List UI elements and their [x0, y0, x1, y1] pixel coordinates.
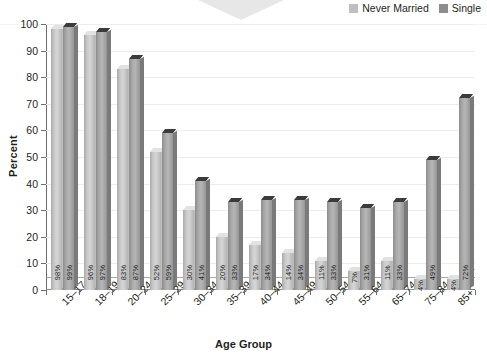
- bar-side-face: [239, 200, 243, 288]
- y-axis-tick-label: 0: [32, 284, 38, 296]
- legend-label-single: Single: [452, 2, 481, 14]
- bar-side-face: [437, 157, 441, 288]
- bar-never-married[interactable]: 7%: [348, 271, 359, 290]
- bar-never-married[interactable]: 11%: [381, 261, 392, 290]
- bar-value-label: 99%: [64, 265, 73, 280]
- gridline: [46, 24, 475, 25]
- y-axis-tick-label: 40: [26, 178, 38, 190]
- x-axis-tick: [343, 290, 344, 295]
- bar-value-label: 4%: [448, 280, 457, 291]
- bar-side-face: [305, 197, 309, 288]
- bar-value-label: 97%: [97, 265, 106, 280]
- plot-area: 010203040506070809010098%99%15–1796%97%1…: [46, 24, 475, 290]
- x-axis-tick: [178, 290, 179, 295]
- bar-value-label: 34%: [295, 265, 304, 280]
- x-axis-tick: [112, 290, 113, 295]
- bar-never-married[interactable]: 98%: [51, 29, 62, 290]
- bar-value-label: 96%: [85, 265, 94, 280]
- x-axis-tick: [442, 290, 443, 295]
- single-swatch: [439, 4, 448, 13]
- bar-value-label: 59%: [163, 265, 172, 280]
- bar-value-label: 98%: [52, 265, 61, 280]
- x-axis-tick: [310, 290, 311, 295]
- legend-label-never-married: Never Married: [362, 2, 429, 14]
- bar-single[interactable]: 33%: [228, 202, 239, 290]
- y-axis-tick-label: 90: [26, 45, 38, 57]
- bar-value-label: 49%: [427, 265, 436, 280]
- bar-single[interactable]: 33%: [327, 202, 338, 290]
- x-axis-title: Age Group: [0, 338, 487, 350]
- bar-side-face: [470, 96, 474, 288]
- bar-chart: Never Married Single Percent 01020304050…: [0, 0, 487, 354]
- y-axis-tick: [41, 184, 46, 185]
- bar-never-married[interactable]: 17%: [249, 245, 260, 290]
- bar-side-face: [74, 24, 78, 288]
- y-axis-tick: [41, 237, 46, 238]
- never-married-swatch: [349, 4, 358, 13]
- y-axis-tick: [41, 263, 46, 264]
- y-axis-tick-label: 70: [26, 98, 38, 110]
- y-axis-tick: [41, 51, 46, 52]
- y-axis-tick: [41, 77, 46, 78]
- bar-single[interactable]: 34%: [261, 200, 272, 290]
- bar-value-label: 33%: [394, 265, 403, 280]
- bar-single[interactable]: 59%: [162, 133, 173, 290]
- bar-never-married[interactable]: 11%: [315, 261, 326, 290]
- x-axis-tick: [79, 290, 80, 295]
- legend-item-never-married[interactable]: Never Married: [349, 2, 429, 14]
- legend-item-single[interactable]: Single: [439, 2, 481, 14]
- bar-value-label: 11%: [382, 265, 391, 280]
- bar-never-married[interactable]: 4%: [447, 279, 458, 290]
- bar-value-label: 30%: [184, 265, 193, 280]
- bar-side-face: [173, 131, 177, 288]
- bar-single[interactable]: 34%: [294, 200, 305, 290]
- y-axis-tick: [41, 157, 46, 158]
- bar-never-married[interactable]: 14%: [282, 253, 293, 290]
- bar-side-face: [272, 197, 276, 288]
- bar-value-label: 33%: [328, 265, 337, 280]
- bar-side-face: [371, 205, 375, 288]
- x-axis-tick: [244, 290, 245, 295]
- bar-side-face: [338, 200, 342, 288]
- x-axis-tick: [46, 290, 47, 295]
- chevron-down-icon: [198, 0, 284, 20]
- bar-single[interactable]: 99%: [63, 27, 74, 290]
- y-axis-tick: [41, 130, 46, 131]
- bar-never-married[interactable]: 52%: [150, 152, 161, 290]
- bar-single[interactable]: 87%: [129, 59, 140, 290]
- y-axis-tick-label: 80: [26, 71, 38, 83]
- x-axis-tick: [376, 290, 377, 295]
- bar-value-label: 87%: [130, 265, 139, 280]
- y-axis-tick: [41, 24, 46, 25]
- bar-value-label: 14%: [283, 265, 292, 280]
- y-axis-tick-label: 30: [26, 204, 38, 216]
- bar-side-face: [404, 200, 408, 288]
- bar-never-married[interactable]: 30%: [183, 210, 194, 290]
- bar-side-face: [206, 179, 210, 288]
- bar-never-married[interactable]: 83%: [117, 69, 128, 290]
- bar-never-married[interactable]: 4%: [414, 279, 425, 290]
- bar-value-label: 4%: [415, 280, 424, 291]
- bar-single[interactable]: 31%: [360, 208, 371, 290]
- x-axis-tick: [211, 290, 212, 295]
- bar-single[interactable]: 41%: [195, 181, 206, 290]
- bar-single[interactable]: 97%: [96, 32, 107, 290]
- bar-single[interactable]: 72%: [459, 98, 470, 290]
- bar-value-label: 72%: [460, 265, 469, 280]
- bar-never-married[interactable]: 20%: [216, 237, 227, 290]
- x-axis-tick: [145, 290, 146, 295]
- x-axis-tick: [409, 290, 410, 295]
- bar-single[interactable]: 33%: [393, 202, 404, 290]
- y-axis-tick-label: 50: [26, 151, 38, 163]
- bar-single[interactable]: 49%: [426, 160, 437, 290]
- bar-value-label: 33%: [229, 265, 238, 280]
- bar-value-label: 31%: [361, 265, 370, 280]
- bar-value-label: 20%: [217, 265, 226, 280]
- bar-side-face: [140, 56, 144, 288]
- bar-never-married[interactable]: 96%: [84, 35, 95, 290]
- y-axis-tick-label: 20: [26, 231, 38, 243]
- y-axis-tick-label: 100: [20, 18, 38, 30]
- y-axis-tick: [41, 104, 46, 105]
- bar-value-label: 17%: [250, 265, 259, 280]
- y-axis-tick: [41, 210, 46, 211]
